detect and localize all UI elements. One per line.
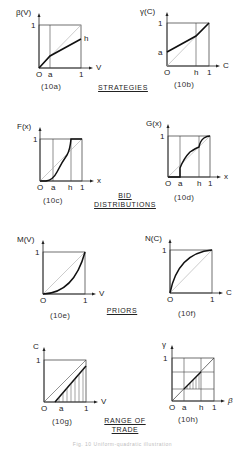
ylabel-10a: β(V) xyxy=(16,9,31,17)
ylabel-10c: F(x) xyxy=(17,123,31,131)
xtick-10b-2: 1 xyxy=(207,69,211,77)
xtick-10a-0: O xyxy=(36,71,42,79)
xtick-10b-1: h xyxy=(194,69,198,77)
caption-10b: (10b) xyxy=(174,80,194,89)
xtick-10a-2: 1 xyxy=(79,71,83,79)
xlabel-10g: V xyxy=(101,398,106,406)
panel-10f: N(C) 1 C O 1 (10f) xyxy=(122,215,245,315)
caption-10h: (10h) xyxy=(178,415,198,424)
xlabel-10b: C xyxy=(223,62,229,70)
xtick-10c-3: 1 xyxy=(80,184,84,192)
xtick-10h-1: a xyxy=(182,404,186,412)
xlabel-10a: V xyxy=(96,64,101,72)
xtick-10f-0: O xyxy=(167,296,173,304)
section-label-bid-distributions: BID DISTRIBUTIONS xyxy=(85,191,165,209)
plot-10f xyxy=(122,215,245,315)
caption-10c: (10c) xyxy=(43,196,63,205)
xtick-10g-0: O xyxy=(41,405,47,413)
xtick-10b-0: O xyxy=(164,69,170,77)
section-label-priors: PRIORS xyxy=(100,306,144,315)
xlabel-10h: β xyxy=(228,397,233,405)
ylabel-10d: G(x) xyxy=(146,120,162,128)
section-label-range-of-trade: RANGE OF TRADE xyxy=(95,416,155,434)
figure-caption: Fig. 10 Uniform-quadratic illustration xyxy=(0,441,245,447)
panel-10b: γ(C) 1 a C O h 1 (10b) xyxy=(122,0,245,110)
ytick-10d: 1 xyxy=(160,133,164,141)
xtick-10e-1: 1 xyxy=(83,297,87,305)
xlabel-10d: x xyxy=(224,173,228,181)
ylabel-10b: γ(C) xyxy=(140,8,155,16)
xtick-10e-0: O xyxy=(40,297,46,305)
ylabel-10f: N(C) xyxy=(145,235,162,243)
xtick-10a-1: a xyxy=(48,71,52,79)
ytick-10f: 1 xyxy=(162,247,166,255)
curve-label-10a: h xyxy=(84,35,88,43)
xtick-10d-0: O xyxy=(165,180,171,188)
ytick-10e: 1 xyxy=(35,249,39,257)
ytick-10b-1: 1 xyxy=(158,20,162,28)
section-label-strategies: STRATEGIES xyxy=(95,83,151,92)
xtick-10h-0: O xyxy=(169,404,175,412)
ylabel-10g: C xyxy=(33,343,39,351)
ylabel-10h: γ xyxy=(162,341,166,349)
plot-10b xyxy=(122,0,245,110)
xlabel-10f: C xyxy=(226,289,232,297)
ytick-10c: 1 xyxy=(33,136,37,144)
caption-10d: (10d) xyxy=(174,193,194,202)
ytick-10g: 1 xyxy=(36,357,40,365)
ytick-10b-a: a xyxy=(158,49,162,57)
xtick-10g-1: a xyxy=(59,405,63,413)
ytick-10a: 1 xyxy=(31,22,35,30)
xtick-10h-3: 1 xyxy=(212,404,216,412)
xlabel-10e: V xyxy=(99,290,104,298)
xtick-10f-1: 1 xyxy=(210,296,214,304)
caption-10e: (10e) xyxy=(50,311,70,320)
ylabel-10e: M(V) xyxy=(17,236,34,244)
caption-10f: (10f) xyxy=(178,309,196,318)
caption-10a: (10a) xyxy=(41,82,61,91)
xtick-10d-2: h xyxy=(197,180,201,188)
panel-10a: β(V) 1 h V O a 1 (10a) xyxy=(0,0,122,110)
xtick-10c-0: O xyxy=(37,184,43,192)
xtick-10c-2: h xyxy=(68,184,72,192)
xtick-10c-1: a xyxy=(51,184,55,192)
xtick-10g-2: 1 xyxy=(84,405,88,413)
xtick-10d-1: a xyxy=(178,180,182,188)
ytick-10h: 1 xyxy=(163,355,167,363)
xtick-10h-2: h xyxy=(199,404,203,412)
xlabel-10c: x xyxy=(97,177,101,185)
caption-10g: (10g) xyxy=(52,417,72,426)
panel-10e: M(V) 1 V O 1 (10e) xyxy=(0,215,122,315)
xtick-10d-3: 1 xyxy=(208,180,212,188)
plot-10e xyxy=(0,215,122,315)
